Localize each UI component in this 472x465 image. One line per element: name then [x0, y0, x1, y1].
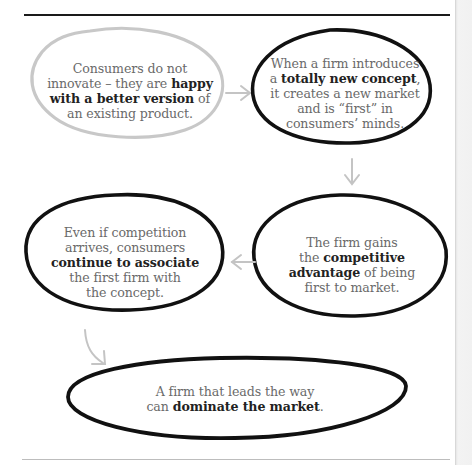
text-line: , [416, 71, 420, 86]
node-5-text: A firm that leads the way can dominate t… [130, 384, 340, 414]
text-emphasis: competitive [323, 250, 405, 265]
arrow-right-icon [226, 86, 250, 100]
page-gutter [455, 0, 472, 465]
text-emphasis: advantage [289, 265, 361, 280]
text-line: arrives, consumers [65, 240, 185, 255]
text-emphasis: dominate the market [173, 399, 320, 414]
text-line: of being [360, 265, 415, 280]
text-line: an existing product. [67, 106, 193, 121]
text-line: the concept. [86, 285, 164, 300]
text-line: A firm that leads the way [156, 384, 315, 399]
text-line: of [194, 91, 210, 106]
text-line: . [320, 399, 324, 414]
text-line: the first firm with [69, 270, 181, 285]
text-line: innovate – they are [47, 76, 171, 91]
text-line: When a firm introduces [271, 56, 420, 71]
text-line: Consumers do not [73, 61, 188, 76]
text-line: Even if competition [64, 225, 187, 240]
text-emphasis: with a better version [50, 91, 194, 106]
arrow-down-icon [345, 159, 359, 184]
text-line: it creates a new market [270, 86, 419, 101]
arrow-curve-down-icon [85, 330, 105, 364]
diagram-page: Consumers do not innovate – they are hap… [0, 0, 455, 465]
text-line: first to market. [305, 280, 400, 295]
text-line: a [270, 71, 281, 86]
text-emphasis: happy [171, 76, 213, 91]
text-line: and is “first” in [297, 101, 393, 116]
text-emphasis: totally new concept [281, 71, 417, 86]
text-line: The firm gains [306, 235, 397, 250]
node-4-text: Even if competition arrives, consumers c… [40, 225, 210, 300]
text-line: consumers’ minds. [286, 116, 404, 131]
text-emphasis: continue to associate [51, 255, 199, 270]
node-1-text: Consumers do not innovate – they are hap… [40, 61, 220, 121]
node-3-text: The firm gains the competitive advantage… [272, 235, 432, 295]
node-2-text: When a firm introduces a totally new con… [260, 56, 430, 131]
text-line: can [146, 399, 172, 414]
arrow-left-icon [232, 255, 255, 269]
bottom-rule [22, 459, 450, 460]
text-line: the [299, 250, 323, 265]
